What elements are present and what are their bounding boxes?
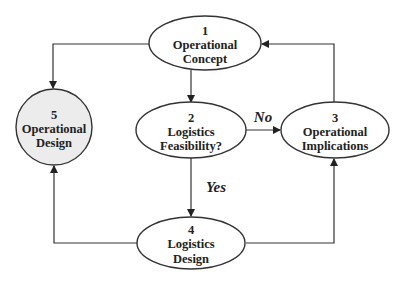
node-4-number: 4 bbox=[188, 223, 195, 237]
node-3-number: 3 bbox=[332, 111, 338, 125]
node-2-logistics-feasibility: 2 Logistics Feasibility? bbox=[136, 102, 246, 158]
node-1-operational-concept: 1 Operational Concept bbox=[149, 16, 261, 70]
edge-label-yes: Yes bbox=[206, 179, 226, 195]
node-1-number: 1 bbox=[202, 24, 208, 38]
node-4-logistics-design: 4 Logistics Design bbox=[137, 217, 245, 269]
node-5-label-line-1: Operational bbox=[22, 122, 87, 136]
node-2-label-line-2: Feasibility? bbox=[160, 139, 222, 153]
node-2-label-line-1: Logistics bbox=[167, 125, 214, 139]
node-1-label-line-2: Concept bbox=[183, 52, 228, 66]
flow-diagram: No Yes 1 Operational Concept 2 Logistics… bbox=[0, 0, 402, 284]
node-3-operational-implications: 3 Operational Implications bbox=[281, 102, 389, 158]
edge-3-to-1 bbox=[262, 44, 334, 102]
node-3-label-line-1: Operational bbox=[303, 125, 368, 139]
node-1-label-line-1: Operational bbox=[173, 38, 238, 52]
edge-4-to-3 bbox=[246, 159, 334, 243]
edge-1-to-5 bbox=[53, 44, 150, 88]
node-3-label-line-2: Implications bbox=[302, 139, 369, 153]
node-5-label-line-2: Design bbox=[36, 136, 72, 150]
edge-4-to-5 bbox=[54, 166, 137, 243]
edge-label-no: No bbox=[253, 109, 272, 125]
node-5-operational-design: 5 Operational Design bbox=[16, 89, 92, 165]
node-2-number: 2 bbox=[188, 111, 194, 125]
node-4-label-line-1: Logistics bbox=[167, 237, 214, 251]
node-4-label-line-2: Design bbox=[173, 252, 209, 266]
node-5-number: 5 bbox=[51, 108, 57, 122]
